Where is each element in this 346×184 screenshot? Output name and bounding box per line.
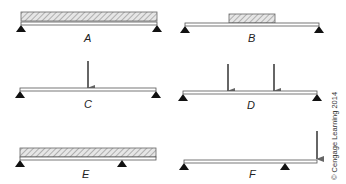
pin-support-icon (151, 91, 161, 98)
panel-c: C (15, 61, 161, 110)
beam-diagram: A B C D E F © Ce (0, 0, 346, 184)
beam (20, 157, 156, 160)
beam (20, 88, 156, 91)
pin-support-icon (312, 94, 322, 101)
copyright-credit: © Cengage Learning 2014 (330, 92, 339, 180)
pin-support-icon (280, 163, 290, 170)
panel-label: F (249, 168, 257, 180)
pin-support-icon (15, 160, 25, 167)
panel-e: E (15, 148, 156, 180)
panel-d: D (178, 64, 322, 111)
panel-b: B (180, 14, 324, 44)
panel-label: D (247, 99, 255, 111)
pin-support-icon (180, 26, 190, 33)
panel-label: E (82, 168, 90, 180)
distributed-load (229, 14, 275, 23)
beam (184, 160, 317, 163)
pin-support-icon (117, 160, 127, 167)
beam (185, 23, 319, 26)
panel-f: F (179, 131, 317, 180)
panel-label: B (248, 32, 255, 44)
beam (21, 22, 157, 25)
pin-support-icon (179, 163, 189, 170)
distributed-load (20, 148, 156, 157)
panel-a: A (16, 12, 162, 44)
pin-support-icon (15, 91, 25, 98)
panel-label: C (84, 98, 92, 110)
pin-support-icon (314, 26, 324, 33)
panel-label: A (83, 32, 91, 44)
beam (183, 91, 317, 94)
pin-support-icon (16, 25, 26, 32)
pin-support-icon (152, 25, 162, 32)
distributed-load (21, 12, 157, 21)
pin-support-icon (178, 94, 188, 101)
